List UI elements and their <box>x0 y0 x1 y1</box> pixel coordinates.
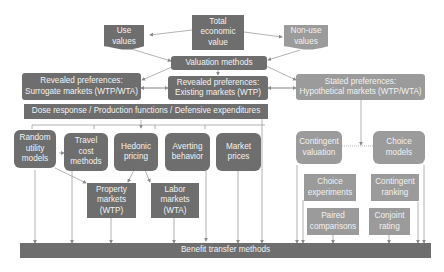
contingent-valuation-box: Contingent valuation <box>296 131 342 164</box>
non-use-values-box: Non-use values <box>284 25 328 51</box>
hedonic-pricing-box: Hedonic pricing <box>114 133 158 171</box>
random-utility-models-box: Random utility models <box>14 130 56 168</box>
property-markets-box: Property markets (WTP) <box>87 183 136 218</box>
use-values-box: Use values <box>104 25 144 51</box>
revealed-surrogate-box: Revealed preferences: Surrogate markets … <box>22 73 141 100</box>
contingent-ranking-box: Contingent ranking <box>371 174 419 201</box>
choice-experiments-box: Choice experiments <box>304 174 356 201</box>
market-prices-box: Market prices <box>216 133 261 171</box>
revealed-existing-box: Revealed preferences: Existing markets (… <box>168 76 268 100</box>
dose-response-bar: Dose response / Production functions / D… <box>24 104 268 119</box>
travel-cost-methods-box: Travel cost methods <box>64 133 108 171</box>
averting-behavior-box: Averting behavior <box>165 133 210 171</box>
choice-models-box: Choice models <box>373 131 425 164</box>
total-economic-value-box: Total economic value <box>192 15 244 50</box>
paired-comparisons-box: Paired comparisons <box>307 208 359 235</box>
labor-markets-box: Labor markets (WTA) <box>151 183 199 218</box>
stated-preferences-box: Stated preferences: Hypothetical markets… <box>296 74 425 100</box>
benefit-transfer-methods-bar: Benefit transfer methods <box>20 243 431 258</box>
valuation-methods-box: Valuation methods <box>171 56 267 70</box>
conjoint-rating-box: Conjoint rating <box>369 208 410 235</box>
